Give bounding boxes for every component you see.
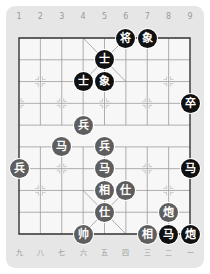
piece-black[interactable]: 炮 bbox=[181, 225, 200, 244]
piece-red[interactable]: 相 bbox=[95, 181, 114, 200]
piece-red[interactable]: 兵 bbox=[10, 159, 29, 178]
piece-red[interactable]: 相 bbox=[138, 225, 157, 244]
piece-black[interactable]: 卒 bbox=[181, 94, 200, 113]
piece-red[interactable]: 炮 bbox=[159, 203, 178, 222]
piece-red[interactable]: 仕 bbox=[95, 203, 114, 222]
piece-black[interactable]: 象 bbox=[138, 29, 157, 48]
piece-red[interactable]: 帅 bbox=[74, 225, 93, 244]
piece-black[interactable]: 将 bbox=[116, 29, 135, 48]
piece-black[interactable]: 马 bbox=[159, 225, 178, 244]
piece-black[interactable]: 象 bbox=[95, 72, 114, 91]
piece-black[interactable]: 士 bbox=[74, 72, 93, 91]
piece-red[interactable]: 兵 bbox=[74, 116, 93, 135]
piece-black[interactable]: 马 bbox=[181, 159, 200, 178]
